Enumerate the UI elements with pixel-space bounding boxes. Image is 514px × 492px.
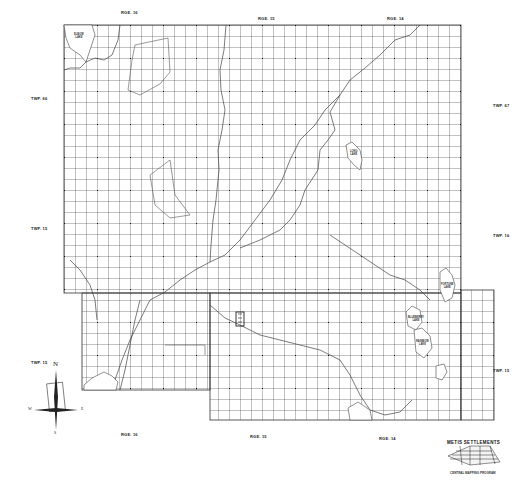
township-label-left-3: TWP. 15 bbox=[31, 360, 47, 365]
lake-label-rainbow: RAINBOW LAKE bbox=[416, 340, 429, 346]
logo-title: METIS SETTLEMENTS bbox=[447, 440, 500, 445]
survey-map-canvas bbox=[0, 0, 514, 492]
compass-rose bbox=[34, 370, 78, 430]
range-label-bottom-16: RGE. 16 bbox=[121, 432, 138, 437]
lake-label-blueberry: BLUEBERRY LAKE bbox=[408, 316, 424, 322]
range-label-bottom-14: RGE. 14 bbox=[379, 436, 396, 441]
township-label-right-3: TWP. 15 bbox=[493, 368, 509, 373]
lake-label-elbow: ELBOW LAKE bbox=[74, 33, 84, 39]
range-label-top-15: RGE. 15 bbox=[258, 16, 275, 21]
township-label-right-1: TWP. 67 bbox=[493, 103, 509, 108]
compass-north-label: N bbox=[53, 360, 58, 368]
range-label-top-14: RGE. 14 bbox=[387, 16, 404, 21]
township-label-left-2: TWP. 15 bbox=[31, 226, 47, 231]
township-label-right-2: TWP. 16 bbox=[493, 233, 509, 238]
range-label-bottom-15: RGE. 15 bbox=[250, 434, 267, 439]
range-label-top-16: RGE. 16 bbox=[121, 10, 138, 15]
logo-subtitle: CENTRAL MAPPING PROGRAM bbox=[450, 471, 496, 475]
lake-label-fortune: FORTUNE LAKE bbox=[441, 283, 454, 289]
lake-label-long: LONG LAKE bbox=[350, 150, 358, 156]
grid-lower-right-block bbox=[210, 290, 494, 420]
compass-west-label: W bbox=[28, 406, 32, 411]
metis-logo-graphic bbox=[448, 446, 500, 465]
compass-east-label: E bbox=[81, 406, 83, 411]
compass-south-label: S bbox=[54, 430, 56, 435]
grid-upper-block bbox=[64, 25, 461, 293]
township-label-left-1: TWP. 66 bbox=[31, 96, 47, 101]
